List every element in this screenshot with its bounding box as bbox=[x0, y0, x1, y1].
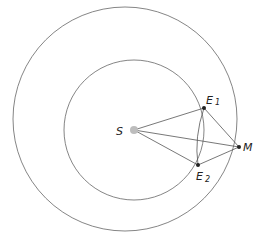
sun bbox=[130, 126, 138, 134]
mars-point bbox=[237, 145, 241, 149]
connecting-lines bbox=[134, 108, 239, 165]
earth1-label: E1 bbox=[206, 94, 220, 107]
sun-label: S bbox=[116, 125, 123, 138]
orbit-diagram: S E1 E2 M bbox=[0, 0, 264, 239]
earth2-point bbox=[196, 163, 200, 167]
mars-label: M bbox=[243, 141, 253, 154]
earth2-label: E2 bbox=[196, 170, 210, 184]
